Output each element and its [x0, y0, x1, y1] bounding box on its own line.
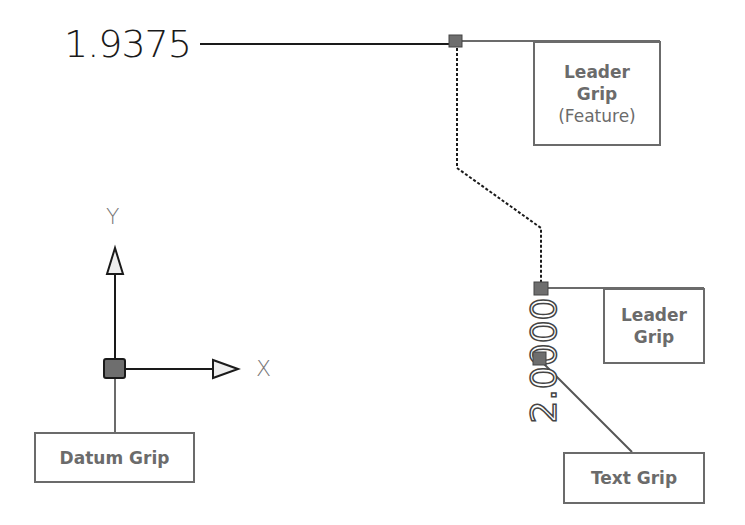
- leader-grip-handle[interactable]: [534, 282, 548, 295]
- horizontal-dimension-text: 1.9375: [64, 22, 191, 66]
- y-axis-arrow-icon: [107, 248, 123, 274]
- dashed-leader-path: [457, 48, 541, 283]
- leader-grip-label: Leader Grip: [603, 288, 705, 364]
- label-line: Leader: [621, 304, 687, 326]
- label-line: Grip: [634, 326, 674, 348]
- label-line: Grip: [577, 83, 617, 105]
- text-grip-label: Text Grip: [563, 452, 705, 504]
- label-line: Leader: [564, 61, 630, 83]
- leader-grip-feature-handle[interactable]: [449, 35, 462, 47]
- datum-grip-handle[interactable]: [104, 359, 125, 378]
- leader-grip-feature-label: Leader Grip (Feature): [533, 41, 661, 146]
- x-axis-label: X: [256, 356, 271, 381]
- y-axis-label: Y: [106, 204, 119, 229]
- datum-grip-label: Datum Grip: [34, 432, 195, 483]
- label-line: Datum Grip: [60, 447, 170, 469]
- label-line: Text Grip: [591, 467, 677, 489]
- x-axis-arrow-icon: [213, 360, 238, 378]
- vertical-dimension-text: 2.0000: [523, 296, 564, 426]
- label-subtext: (Feature): [558, 105, 636, 127]
